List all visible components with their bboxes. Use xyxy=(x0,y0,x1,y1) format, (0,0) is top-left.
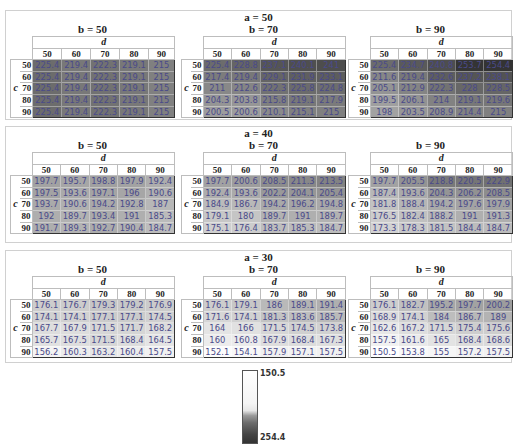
heatmap-cell: 191.7 xyxy=(32,222,60,234)
heatmap-cell: 188.4 xyxy=(399,199,427,211)
row-tick: 70 xyxy=(358,199,370,211)
row-tick: 60 xyxy=(358,311,370,323)
heatmap-cell: 193.6 xyxy=(232,187,260,199)
panel-title: a = 40 xyxy=(6,127,511,139)
heatmap-cell: 225.4 xyxy=(33,60,62,72)
heatmap-cell: 180 xyxy=(232,210,260,222)
heatmap-cell: 184.7 xyxy=(146,222,175,234)
heatmap-cell: 197.9 xyxy=(117,176,145,188)
column-tick: 50 xyxy=(370,288,398,300)
heatmap-cell: 237.2 xyxy=(455,71,483,83)
colorbar-min-label: 150.5 xyxy=(260,369,285,378)
subtable-title: b = 50 xyxy=(10,23,175,36)
heatmap-cell: 187 xyxy=(146,199,175,211)
table-row: 80204.3203.8215.8219.1217.9 xyxy=(182,94,346,106)
row-axis-label: c xyxy=(182,300,191,358)
row-tick: 80 xyxy=(358,334,370,346)
heatmap-cell: 232.6 xyxy=(427,71,455,83)
heatmap-cell: 185.3 xyxy=(146,210,175,222)
table-row: 60192.4193.6202.2204.1205.4 xyxy=(182,187,346,199)
heatmap-cell: 186 xyxy=(260,300,288,312)
heatmap-cell: 228.5 xyxy=(484,83,513,95)
column-tick: 70 xyxy=(427,164,455,176)
table-row: 60197.5193.6197.1196190.6 xyxy=(11,187,175,199)
heatmap-cell: 157.9 xyxy=(260,346,288,358)
row-tick: 50 xyxy=(191,176,203,188)
heatmap-cell: 191 xyxy=(455,210,483,222)
heatmap-cell: 222.3 xyxy=(91,71,120,83)
heatmap-cell: 192.8 xyxy=(117,199,145,211)
column-tick: 90 xyxy=(317,164,346,176)
row-tick: 90 xyxy=(358,222,370,234)
heatmap-cell: 205.1 xyxy=(370,83,398,95)
colorbar-max-label: 254.4 xyxy=(260,433,285,442)
heatmap-cell: 225.4 xyxy=(370,60,398,72)
table-row: c50197.7205.5218.8220.5222.9 xyxy=(349,176,513,188)
row-tick: 70 xyxy=(358,83,370,95)
table-row: c50225.4234.7240.8253.7254.4 xyxy=(349,60,513,72)
row-tick: 70 xyxy=(191,199,203,211)
table-row: 80165.7167.5171.5168.4164.5 xyxy=(11,334,175,346)
heatmap-cell: 219.4 xyxy=(62,106,91,118)
heatmap-cell: 211 xyxy=(203,83,231,95)
heatmap-cell: 164 xyxy=(203,323,231,335)
heatmap-cell: 203.8 xyxy=(232,94,260,106)
heatmap-table: d5060708090c50176.1182.7195.2197.7200.26… xyxy=(348,276,513,358)
row-axis-label: c xyxy=(11,176,20,234)
heatmap-cell: 186.7 xyxy=(232,199,260,211)
column-tick: 70 xyxy=(89,164,117,176)
heatmap-cell: 193.7 xyxy=(32,199,60,211)
column-tick: 50 xyxy=(370,164,398,176)
heatmap-cell: 228.8 xyxy=(232,60,260,72)
heatmap-cell: 196.2 xyxy=(288,199,316,211)
heatmap-cell: 189.3 xyxy=(61,222,89,234)
row-tick: 60 xyxy=(358,187,370,199)
heatmap-cell: 174.1 xyxy=(61,311,89,323)
heatmap-cell: 173.3 xyxy=(370,222,398,234)
heatmap-cell: 208.9 xyxy=(427,106,455,118)
row-tick: 70 xyxy=(20,199,32,211)
heatmap-cell: 241 xyxy=(317,60,346,72)
heatmap-cell: 161.6 xyxy=(399,334,427,346)
row-tick: 50 xyxy=(20,176,32,188)
column-axis-label: d xyxy=(32,277,174,289)
row-axis-label: c xyxy=(349,60,358,118)
heatmap-cell: 224.8 xyxy=(317,83,346,95)
heatmap-table: d5060708090c50197.7195.7198.8197.9192.46… xyxy=(10,152,175,234)
heatmap-cell: 210.1 xyxy=(260,106,288,118)
heatmap-cell: 238.1 xyxy=(484,71,513,83)
row-axis-label: c xyxy=(11,60,21,118)
heatmap-cell: 198.8 xyxy=(89,176,117,188)
column-axis-label: d xyxy=(203,277,345,289)
heatmap-cell: 234.7 xyxy=(399,60,427,72)
panel-a-40: a = 40b = 50d5060708090c50197.7195.7198.… xyxy=(5,126,512,243)
column-tick: 50 xyxy=(32,288,60,300)
heatmap-cell: 215.8 xyxy=(260,94,288,106)
table-row: 90152.1154.1157.9157.1157.5 xyxy=(182,346,346,358)
heatmap-cell: 183.7 xyxy=(260,222,288,234)
subtable-title: b = 50 xyxy=(10,263,175,276)
heatmap-cell: 174.1 xyxy=(399,311,427,323)
heatmap-cell: 233.1 xyxy=(317,71,346,83)
column-axis-label: d xyxy=(203,153,345,165)
heatmap-cell: 204.3 xyxy=(427,187,455,199)
heatmap-table: d5060708090c50197.7200.6208.5211.3213.56… xyxy=(181,152,346,234)
heatmap-cell: 219.4 xyxy=(62,94,91,106)
heatmap-cell: 197.1 xyxy=(89,187,117,199)
heatmap-cell: 185.7 xyxy=(317,311,346,323)
heatmap-cell: 162.6 xyxy=(370,323,398,335)
heatmap-cell: 176.4 xyxy=(232,222,260,234)
row-tick: 80 xyxy=(358,210,370,222)
subtable-title: b = 70 xyxy=(181,263,346,276)
heatmap-cell: 168.6 xyxy=(484,334,513,346)
heatmap-cell: 219.1 xyxy=(119,106,148,118)
heatmap-cell: 153.8 xyxy=(399,346,427,358)
heatmap-cell: 225.4 xyxy=(33,71,62,83)
subtable-title: b = 70 xyxy=(181,139,346,152)
column-tick: 70 xyxy=(89,288,117,300)
heatmap-cell: 155 xyxy=(427,346,455,358)
heatmap-cell: 198 xyxy=(370,106,398,118)
table-row: 90198203.5208.9214.4215 xyxy=(349,106,513,118)
column-tick: 90 xyxy=(317,288,346,300)
heatmap-table: d5060708090c50225.4219.4222.3219.1215602… xyxy=(10,36,175,118)
